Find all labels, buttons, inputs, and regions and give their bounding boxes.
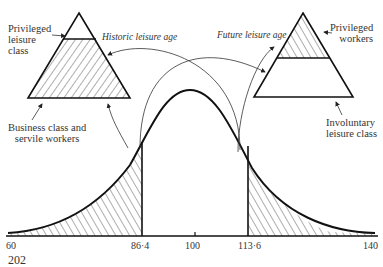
label-line: workers (330, 33, 373, 44)
label-historic-leisure-age: Historic leisure age (102, 32, 177, 43)
label-line: class (8, 45, 51, 56)
label-line: servile workers (8, 133, 86, 144)
tick-60: 60 (6, 240, 16, 251)
label-line: Privileged (330, 22, 373, 33)
label-line: leisure (8, 34, 51, 45)
tick-86-4: 86·4 (131, 240, 149, 251)
label-privileged-leisure-class: Privileged leisure class (8, 23, 51, 56)
label-involuntary-leisure-class: Involuntary leisure class (326, 117, 377, 139)
tick-100: 100 (185, 240, 200, 251)
page-number: 202 (8, 253, 26, 267)
tick-140: 140 (363, 240, 378, 251)
label-line: Business class and (8, 122, 86, 133)
label-privileged-workers: Privileged workers (330, 22, 373, 44)
label-business-class: Business class and servile workers (8, 122, 86, 144)
bell-curve (6, 90, 378, 236)
tick-113-6: 113·6 (238, 240, 261, 251)
label-line: Involuntary (326, 117, 377, 128)
label-line: Privileged (8, 23, 51, 34)
label-future-leisure-age: Future leisure age (217, 30, 286, 41)
label-line: leisure class (326, 128, 377, 139)
